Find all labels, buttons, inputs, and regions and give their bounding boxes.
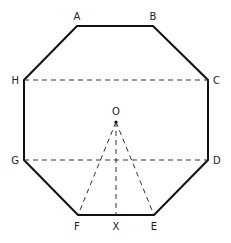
dashed-line-of [78, 122, 116, 215]
label-b: B [150, 11, 157, 22]
octagon-diagram: A B C D E F G H O X [0, 0, 231, 243]
label-e: E [151, 221, 157, 232]
label-x: X [113, 221, 120, 232]
label-h: H [11, 75, 19, 86]
label-c: C [213, 75, 220, 86]
dashed-line-oe [116, 122, 154, 215]
label-f: F [74, 221, 80, 232]
center-point-o [114, 120, 117, 123]
label-d: D [213, 155, 221, 166]
label-o: O [112, 106, 120, 117]
label-a: A [74, 11, 81, 22]
label-g: G [11, 155, 19, 166]
